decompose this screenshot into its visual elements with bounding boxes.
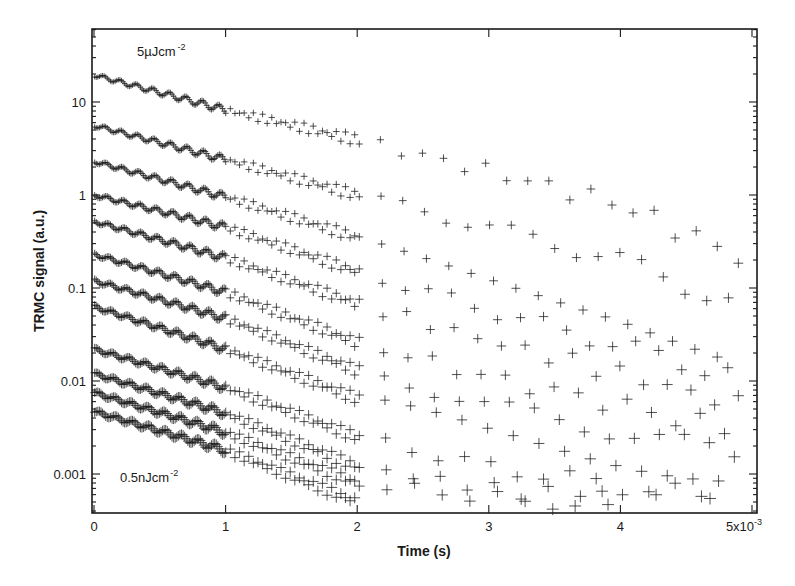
- x-tick-label: 2: [354, 519, 361, 534]
- series-1: [92, 73, 743, 268]
- series-9: [91, 344, 708, 502]
- bottom-energy-annotation: 0.5nJcm-2: [120, 468, 178, 485]
- x-tick-label: 3: [485, 519, 492, 534]
- y-tick-label: 0.1: [68, 281, 86, 296]
- series-8: [91, 301, 725, 487]
- x-tick-label: 5x10-3: [726, 517, 762, 534]
- trmc-decay-chart: 0.0010.010.1110 012345x10-3 5µJcm-2 0.5n…: [0, 0, 795, 586]
- series-12: [90, 407, 360, 507]
- series-3: [92, 159, 723, 362]
- top-energy-annotation: 5µJcm-2: [137, 42, 186, 59]
- series-4: [92, 192, 734, 381]
- series-11: [90, 388, 614, 516]
- y-tick-label: 1: [79, 188, 86, 203]
- x-tick-label: 0: [90, 519, 97, 534]
- x-tick-label: 4: [617, 519, 624, 534]
- y-tick-label: 10: [72, 95, 86, 110]
- series-7: [91, 275, 740, 462]
- y-axis-title: TRMC signal (a.u.): [31, 210, 47, 332]
- y-tick-label: 0.01: [61, 374, 86, 389]
- series-6: [91, 250, 730, 440]
- x-axis-title: Time (s): [397, 543, 450, 559]
- y-tick-label: 0.001: [53, 467, 86, 482]
- x-tick-label: 1: [222, 519, 229, 534]
- data-series: [90, 73, 744, 515]
